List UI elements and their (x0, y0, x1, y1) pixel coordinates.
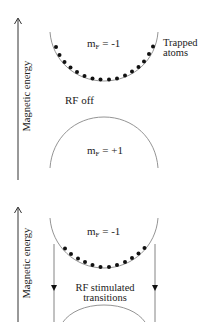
rf-off-label: RF off (65, 95, 94, 106)
rf-transition-left (51, 244, 57, 322)
state-label-mf-minus1-bottom: mF = -1 (87, 226, 120, 239)
trapped-atoms-bottom (63, 246, 147, 269)
trapped-atoms-label: Trapped atoms (163, 38, 198, 58)
potential-hill-mf-plus1-bottom (63, 305, 145, 322)
arrow-down-icon (152, 285, 158, 291)
rf-transition-right (152, 244, 158, 322)
potential-hill-mf-plus1-top (50, 117, 158, 168)
axis-label-top: Magnetic energy (21, 66, 32, 132)
arrow-down-icon (51, 285, 57, 291)
axis-label-bottom: Magnetic energy (21, 233, 32, 299)
diagram: Magnetic energy mF = -1 Trapped atoms RF… (0, 0, 203, 322)
state-label-mf-plus1-top: mF = +1 (87, 145, 123, 158)
state-label-mf-minus1-top: mF = -1 (87, 38, 120, 51)
rf-stimulated-label: RF stimulated transitions (64, 283, 146, 303)
